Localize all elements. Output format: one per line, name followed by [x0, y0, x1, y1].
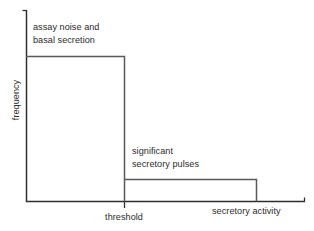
annotation-below-threshold-line1: assay noise and [33, 22, 99, 32]
y-axis-label: frequency [11, 79, 21, 120]
x-axis-label: secretory activity [212, 206, 281, 216]
annotation-above-threshold-line2: secretory pulses [132, 159, 199, 169]
annotation-above-threshold-line1: significant [132, 146, 173, 156]
threshold-label: threshold [105, 212, 143, 222]
annotation-below-threshold-line2: basal secretion [33, 35, 95, 45]
step-distribution-chart: frequency secretory activity threshold a… [0, 0, 314, 231]
figure-container: frequency secretory activity threshold a… [0, 0, 314, 231]
